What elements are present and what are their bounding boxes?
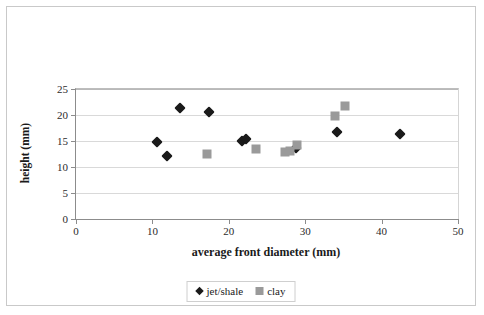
legend-entry-clay[interactable]: clay xyxy=(255,285,285,297)
gridline-y-20 xyxy=(76,115,458,116)
x-tick-label-30: 30 xyxy=(300,225,311,237)
y-tick-label-15: 15 xyxy=(57,135,68,147)
x-tick-30 xyxy=(305,219,306,224)
x-tick-50 xyxy=(458,219,459,224)
data-point-jet-shale xyxy=(174,103,185,114)
data-point-clay xyxy=(340,102,349,111)
chart-figure: height (mm) 0510152025 01020304050 avera… xyxy=(6,6,476,306)
y-tick-label-25: 25 xyxy=(57,83,68,95)
gridline-y-10 xyxy=(76,167,458,168)
legend-label: clay xyxy=(267,285,285,297)
data-point-clay xyxy=(292,141,301,150)
y-tick-25 xyxy=(71,89,76,90)
y-tick-label-10: 10 xyxy=(57,161,68,173)
data-point-clay xyxy=(330,112,339,121)
y-tick-label-20: 20 xyxy=(57,109,68,121)
x-tick-label-50: 50 xyxy=(453,225,464,237)
chart-legend: jet/shaleclay xyxy=(187,281,296,302)
data-point-jet-shale xyxy=(161,150,172,161)
y-tick-15 xyxy=(71,141,76,142)
data-point-jet-shale xyxy=(203,107,214,118)
y-tick-label-5: 5 xyxy=(63,187,69,199)
x-tick-20 xyxy=(229,219,230,224)
data-point-clay xyxy=(251,145,260,154)
x-tick-label-0: 0 xyxy=(73,225,79,237)
x-tick-label-20: 20 xyxy=(223,225,234,237)
legend-entry-jet-shale[interactable]: jet/shale xyxy=(197,285,244,297)
y-tick-label-0: 0 xyxy=(63,213,69,225)
y-axis-title: height (mm) xyxy=(19,123,31,183)
x-tick-0 xyxy=(76,219,77,224)
x-tick-10 xyxy=(152,219,153,224)
data-point-jet-shale xyxy=(332,126,343,137)
gridline-y-5 xyxy=(76,193,458,194)
y-tick-20 xyxy=(71,115,76,116)
plot-area: 0510152025 01020304050 xyxy=(75,88,459,220)
diamond-marker-icon xyxy=(195,287,203,295)
x-tick-40 xyxy=(382,219,383,224)
data-point-clay xyxy=(202,150,211,159)
gridline-y-15 xyxy=(76,141,458,142)
x-tick-label-40: 40 xyxy=(376,225,387,237)
y-tick-5 xyxy=(71,193,76,194)
legend-label: jet/shale xyxy=(207,285,244,297)
gridline-y-25 xyxy=(76,89,458,90)
x-axis-title: average front diameter (mm) xyxy=(75,245,457,260)
square-marker-icon xyxy=(255,287,263,295)
data-point-jet-shale xyxy=(151,136,162,147)
y-tick-10 xyxy=(71,167,76,168)
data-point-jet-shale xyxy=(394,129,405,140)
x-tick-label-10: 10 xyxy=(147,225,158,237)
